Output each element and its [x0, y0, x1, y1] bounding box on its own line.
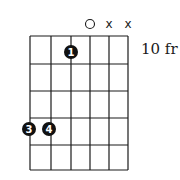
finger-dot: 4	[42, 122, 56, 136]
finger-number: 3	[26, 124, 33, 135]
open-string-icon	[86, 20, 95, 29]
fret-position-label: 10 fr	[141, 40, 178, 58]
finger-number: 4	[46, 124, 53, 135]
finger-number: 1	[68, 47, 75, 58]
chord-diagram: x x 10 fr 1 3 4	[0, 0, 180, 180]
fretboard-grid	[30, 36, 128, 170]
muted-string-icon: x	[105, 17, 112, 31]
muted-string-icon: x	[124, 17, 131, 31]
finger-dot: 1	[64, 45, 78, 59]
finger-dot: 3	[22, 122, 36, 136]
